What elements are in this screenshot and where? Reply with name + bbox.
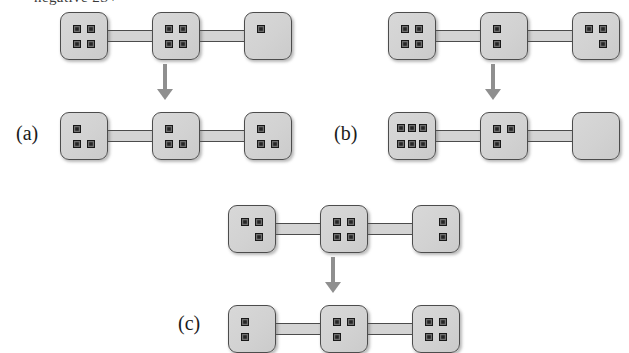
- particle-dot-grid: [481, 113, 527, 159]
- particle-dot: [425, 333, 433, 341]
- box-chain-c-after: [228, 305, 460, 353]
- box-chain-c-before: [228, 205, 460, 253]
- particle-dot: [408, 124, 416, 132]
- particle-dot-empty: [255, 318, 263, 326]
- site-box: [244, 112, 292, 160]
- particle-dot-empty: [599, 125, 607, 133]
- particle-dot: [257, 125, 265, 133]
- particle-dot-grid: [389, 113, 435, 159]
- particle-dot-grid: [153, 13, 199, 59]
- particle-dot: [73, 40, 81, 48]
- site-box: [412, 205, 460, 253]
- connector-link: [368, 323, 412, 335]
- particle-dot: [73, 140, 81, 148]
- transition-arrow-icon: [322, 257, 344, 293]
- particle-dot: [87, 40, 95, 48]
- particle-dot: [397, 124, 405, 132]
- arrow-head: [157, 89, 173, 100]
- site-box: [228, 305, 276, 353]
- connector-link: [200, 30, 244, 42]
- site-box: [412, 305, 460, 353]
- particle-dot-empty: [347, 333, 355, 341]
- particle-dot-empty: [585, 125, 593, 133]
- particle-dot: [165, 25, 173, 33]
- particle-dot-empty: [257, 40, 265, 48]
- particle-dot: [257, 25, 265, 33]
- particle-dot: [87, 140, 95, 148]
- particle-dot-grid: [573, 13, 619, 59]
- particle-dot-empty: [179, 125, 187, 133]
- connector-link: [108, 130, 152, 142]
- particle-dot-empty: [425, 218, 433, 226]
- particle-dot-empty: [599, 140, 607, 148]
- particle-dot: [599, 25, 607, 33]
- arrow-shaft: [491, 64, 495, 90]
- site-box: [388, 12, 436, 60]
- particle-dot: [599, 40, 607, 48]
- arrow-shaft: [331, 257, 335, 283]
- transition-arrow-icon: [482, 64, 504, 100]
- particle-dot-empty: [271, 125, 279, 133]
- top-text-fragment: negative 2S+: [34, 0, 118, 6]
- particle-dot: [439, 218, 447, 226]
- particle-dot: [425, 318, 433, 326]
- particle-dot: [333, 233, 341, 241]
- particle-dot-empty: [585, 40, 593, 48]
- connector-link: [276, 223, 320, 235]
- particle-dot-grid: [229, 206, 275, 252]
- particle-dot: [165, 140, 173, 148]
- particle-dot: [397, 140, 405, 148]
- connector-link: [436, 30, 480, 42]
- particle-dot-grid: [413, 206, 459, 252]
- connector-link: [528, 130, 572, 142]
- site-box: [320, 205, 368, 253]
- transition-arrow-icon: [154, 64, 176, 100]
- particle-dot-empty: [271, 40, 279, 48]
- particle-dot: [493, 40, 501, 48]
- particle-dot: [73, 25, 81, 33]
- particle-dot: [408, 140, 416, 148]
- particle-dot-grid: [245, 113, 291, 159]
- connector-link: [276, 323, 320, 335]
- particle-dot: [73, 125, 81, 133]
- particle-dot: [415, 40, 423, 48]
- site-box: [388, 112, 436, 160]
- particle-dot: [333, 333, 341, 341]
- particle-dot-grid: [573, 113, 619, 159]
- particle-dot: [507, 125, 515, 133]
- particle-dot-empty: [425, 233, 433, 241]
- particle-dot: [415, 25, 423, 33]
- particle-dot: [255, 233, 263, 241]
- particle-dot: [165, 40, 173, 48]
- particle-dot-empty: [507, 40, 515, 48]
- particle-dot: [439, 333, 447, 341]
- particle-dot: [439, 318, 447, 326]
- particle-dot: [179, 40, 187, 48]
- arrow-head: [485, 89, 501, 100]
- particle-dot: [419, 124, 427, 132]
- site-box: [480, 112, 528, 160]
- particle-dot: [241, 318, 249, 326]
- site-box: [228, 205, 276, 253]
- box-chain-b-before: [388, 12, 620, 60]
- particle-dot: [241, 218, 249, 226]
- site-box: [244, 12, 292, 60]
- particle-dot-grid: [481, 13, 527, 59]
- particle-dot: [271, 140, 279, 148]
- particle-dot: [401, 25, 409, 33]
- particle-dot-empty: [585, 140, 593, 148]
- particle-dot: [347, 318, 355, 326]
- panel-label-2: (b): [334, 122, 357, 145]
- particle-dot-grid: [229, 306, 275, 352]
- connector-link: [200, 130, 244, 142]
- particle-dot-empty: [507, 25, 515, 33]
- particle-dot-grid: [61, 13, 107, 59]
- particle-dot-empty: [507, 140, 515, 148]
- particle-dot: [347, 233, 355, 241]
- particle-dot: [179, 25, 187, 33]
- box-chain-b-after: [388, 112, 620, 160]
- particle-dot-grid: [321, 206, 367, 252]
- site-box: [60, 12, 108, 60]
- connector-link: [368, 223, 412, 235]
